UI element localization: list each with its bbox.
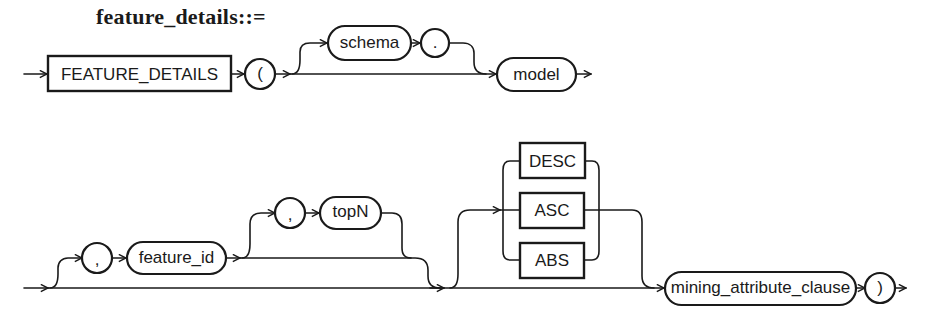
syntax-diagram: FEATURE_DETAILS ( schema . model (0, 0, 947, 309)
dot-label: . (433, 33, 438, 52)
order-branch-out (584, 210, 654, 288)
open-paren-label: ( (257, 64, 263, 83)
abs-keyword: ABS (520, 243, 584, 278)
comma-token-2: , (275, 198, 305, 228)
mining-attribute-clause-label: mining_attribute_clause (671, 278, 851, 297)
feature-id-label: feature_id (139, 248, 215, 267)
dot-token: . (421, 29, 449, 57)
comma-label-1: , (95, 250, 100, 269)
feature-id-token: feature_id (127, 242, 226, 274)
open-paren-token: ( (245, 59, 275, 89)
order-branch-in (450, 210, 500, 288)
asc-label: ASC (535, 201, 570, 220)
topn-branch-in (242, 213, 275, 258)
feature-details-keyword: FEATURE_DETAILS (48, 56, 231, 91)
close-paren-token: ) (865, 273, 895, 303)
feature-branch-out (240, 258, 440, 288)
schema-token: schema (328, 26, 411, 60)
feature-details-label: FEATURE_DETAILS (61, 65, 218, 84)
desc-keyword: DESC (520, 143, 585, 178)
model-label: model (513, 65, 559, 84)
comma-label-2: , (288, 205, 293, 224)
comma-token-1: , (82, 243, 112, 273)
mining-attribute-clause-token: mining_attribute_clause (665, 272, 856, 305)
schema-branch-out (449, 43, 486, 74)
model-token: model (497, 58, 576, 91)
topn-label: topN (333, 202, 369, 221)
topn-branch-out (381, 213, 411, 258)
topn-token: topN (320, 197, 381, 229)
schema-label: schema (340, 33, 400, 52)
asc-keyword: ASC (520, 193, 584, 228)
abs-label: ABS (535, 251, 569, 270)
desc-label: DESC (529, 152, 576, 171)
schema-branch-in (292, 43, 327, 74)
close-paren-label: ) (877, 278, 883, 297)
feature-branch-in (50, 258, 82, 288)
